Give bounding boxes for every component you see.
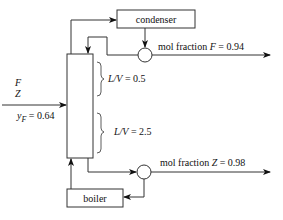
lower-ratio-label: L/V = 2.5	[113, 126, 152, 137]
feed-composition-label: yF = 0.64	[16, 110, 54, 124]
bottom-splitter	[137, 165, 151, 179]
column	[67, 54, 93, 158]
distillation-diagram: condenser mol fraction F = 0.94 L/V = 0.…	[0, 0, 283, 220]
boiler-label: boiler	[83, 193, 107, 204]
feed-label-f: F	[14, 77, 22, 88]
top-product-label: mol fraction F = 0.94	[158, 41, 244, 52]
reflux-line	[88, 37, 138, 55]
lower-section-brace	[97, 113, 104, 153]
condenser: condenser	[117, 10, 195, 28]
boiler: boiler	[67, 189, 123, 207]
condenser-label: condenser	[136, 14, 177, 25]
boiler-feed-line	[124, 179, 144, 197]
upper-ratio-label: L/V = 0.5	[107, 73, 146, 84]
top-splitter	[138, 48, 152, 62]
upper-section-brace	[97, 62, 104, 96]
bottom-product-label: mol fraction Z = 0.98	[160, 157, 245, 168]
feed-label-z: Z	[15, 88, 21, 99]
bottoms-line	[88, 158, 136, 172]
